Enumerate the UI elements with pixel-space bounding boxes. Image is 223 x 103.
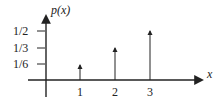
x-tick-label-1: 1	[77, 85, 83, 99]
x-axis-label: x	[206, 67, 213, 81]
pmf-stem-chart: p(x) x 1/2 1/3 1/6 1 2 3	[0, 0, 223, 103]
y-tick-label-half: 1/2	[13, 24, 28, 38]
x-tick-label-2: 2	[112, 85, 118, 99]
y-axis-label: p(x)	[50, 3, 70, 17]
y-tick-label-sixth: 1/6	[13, 57, 28, 71]
x-tick-label-3: 3	[147, 85, 153, 99]
y-tick-label-third: 1/3	[13, 41, 28, 55]
